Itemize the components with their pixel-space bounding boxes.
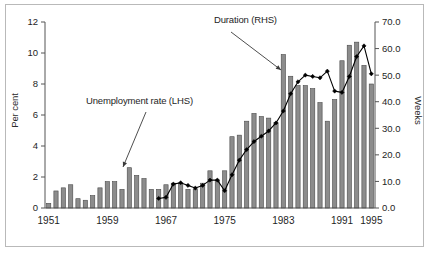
bar — [47, 203, 51, 208]
bar — [54, 191, 58, 208]
bar — [296, 86, 300, 208]
annotation-unemployment-rate: Unemployment rate (LHS) — [86, 95, 193, 106]
bar — [113, 182, 117, 208]
bar — [120, 189, 124, 208]
arrow-duration-line — [231, 32, 281, 70]
arrow-unemployment-line — [123, 112, 146, 167]
y-tick-label-left: 6 — [33, 109, 38, 120]
x-tick-label: 1967 — [155, 215, 178, 226]
bar — [252, 113, 256, 208]
y-tick-label-left: 0 — [33, 202, 38, 213]
chart-plot-area: 024681012 0.010.020.030.040.050.060.070.… — [0, 0, 429, 255]
y-axis-left-title: Per cent — [9, 81, 20, 141]
x-tick-label: 1991 — [331, 215, 354, 226]
bar — [215, 180, 219, 208]
duration-marker — [333, 89, 337, 93]
bar — [61, 188, 65, 208]
bar — [142, 179, 146, 208]
bar — [333, 100, 337, 209]
duration-marker — [311, 74, 315, 78]
y-tick-label-right: 10.0 — [382, 176, 401, 187]
bar — [245, 121, 249, 208]
x-tick-label: 1995 — [360, 215, 383, 226]
arrow-duration-head — [276, 65, 281, 70]
bar — [127, 168, 131, 208]
annotation-duration: Duration (RHS) — [214, 14, 277, 25]
y-tick-label-right: 0.0 — [382, 202, 395, 213]
y-tick-label-right: 20.0 — [382, 149, 401, 160]
x-tick-label: 1951 — [38, 215, 61, 226]
y-tick-label-left: 2 — [33, 171, 38, 182]
bar — [303, 86, 307, 208]
bar — [355, 42, 359, 208]
y-tick-label-right: 60.0 — [382, 43, 401, 54]
bar — [193, 189, 197, 208]
bar — [186, 189, 190, 208]
y-axis-right-ticks: 0.010.020.030.040.050.060.070.0 — [375, 16, 401, 213]
y-tick-label-right: 70.0 — [382, 16, 401, 27]
bar — [347, 45, 351, 208]
y-axis-left-ticks: 024681012 — [27, 16, 45, 213]
bar — [135, 175, 139, 208]
duration-marker — [186, 183, 190, 187]
x-tick-label: 1975 — [214, 215, 237, 226]
y-tick-label-right: 30.0 — [382, 123, 401, 134]
duration-line — [159, 46, 372, 199]
bar — [69, 185, 73, 208]
bar — [179, 183, 183, 208]
bar — [369, 84, 373, 208]
y-tick-label-left: 12 — [27, 16, 38, 27]
bar — [259, 117, 263, 208]
bar — [340, 61, 344, 208]
y-tick-label-right: 40.0 — [382, 96, 401, 107]
chart-figure: 024681012 0.010.020.030.040.050.060.070.… — [0, 0, 429, 255]
bar — [362, 65, 366, 208]
bar — [105, 182, 109, 208]
bar — [149, 189, 153, 208]
y-tick-label-left: 10 — [27, 47, 38, 58]
bar — [98, 188, 102, 208]
bar-series-unemployment-rate — [47, 42, 374, 208]
y-tick-label-left: 4 — [33, 140, 38, 151]
x-tick-label: 1959 — [96, 215, 119, 226]
bar — [274, 123, 278, 208]
bar — [91, 196, 95, 208]
y-axis-right-title: Weeks — [413, 81, 424, 141]
bar — [281, 55, 285, 208]
y-tick-label-left: 8 — [33, 78, 38, 89]
y-tick-label-right: 50.0 — [382, 70, 401, 81]
bar — [237, 135, 241, 208]
bar — [76, 199, 80, 208]
x-axis-ticks: 1951195919671975198319911995 — [38, 215, 383, 226]
x-tick-label: 1983 — [272, 215, 295, 226]
bar — [208, 171, 212, 208]
bar — [318, 103, 322, 208]
bar — [325, 121, 329, 208]
duration-marker — [369, 72, 373, 76]
bar — [83, 200, 87, 208]
bar — [311, 89, 315, 208]
